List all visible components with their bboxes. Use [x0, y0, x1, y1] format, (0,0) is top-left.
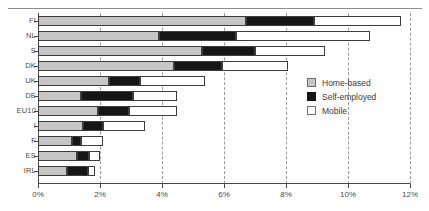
bar-segment-f-home — [38, 136, 72, 146]
legend-swatch-home-icon — [307, 78, 316, 87]
legend-item-mobile: Mobile — [307, 104, 407, 117]
bar-segment-irl-mobile — [88, 166, 96, 176]
chart-legend: Home-basedSelf-employedMobile — [307, 76, 407, 118]
x-tick-label-2%: 2% — [94, 190, 106, 199]
bar-segment-uk-mobile — [140, 76, 205, 86]
legend-swatch-mobile-icon — [307, 106, 316, 115]
bar-row — [0, 166, 429, 176]
legend-label: Self-employed — [322, 92, 376, 102]
bar-segment-eu10-self — [98, 106, 129, 116]
x-tick-12% — [410, 184, 411, 188]
bar-row — [0, 61, 429, 71]
x-tick-10% — [348, 184, 349, 188]
bar-segment-dk-home — [38, 61, 174, 71]
bar-segment-f-mobile — [81, 136, 103, 146]
bar-segment-irl-home — [38, 166, 67, 176]
bar-segment-nl-mobile — [236, 31, 369, 41]
x-tick-label-10%: 10% — [340, 190, 356, 199]
bar-segment-f-self — [72, 136, 81, 146]
legend-label: Home-based — [322, 78, 371, 88]
x-tick-4% — [162, 184, 163, 188]
legend-item-self: Self-employed — [307, 90, 407, 103]
bar-segment-fi-home — [38, 16, 246, 26]
bar-segment-de-mobile — [133, 91, 178, 101]
bar-segment-i-self — [83, 121, 103, 131]
bar-segment-de-self — [81, 91, 132, 101]
bar-row — [0, 46, 429, 56]
bar-segment-es-self — [77, 151, 89, 161]
bar-segment-s-mobile — [255, 46, 325, 56]
bar-segment-eu10-home — [38, 106, 98, 116]
x-tick-label-4%: 4% — [156, 190, 168, 199]
bar-segment-es-mobile — [89, 151, 100, 161]
bar-segment-fi-mobile — [314, 16, 401, 26]
legend-item-home: Home-based — [307, 76, 407, 89]
bar-segment-irl-self — [67, 166, 87, 176]
bar-segment-es-home — [38, 151, 77, 161]
bar-row — [0, 136, 429, 146]
top-divider-rule — [8, 8, 422, 9]
bar-segment-dk-mobile — [222, 61, 287, 71]
bar-segment-i-home — [38, 121, 83, 131]
bar-segment-nl-self — [159, 31, 237, 41]
bar-segment-fi-self — [246, 16, 314, 26]
chart-figure: FINLSDKUKDEEU10IFESIRL 0%2%4%6%8%10%12% … — [0, 0, 429, 211]
bar-segment-eu10-mobile — [129, 106, 177, 116]
x-tick-label-8%: 8% — [280, 190, 292, 199]
legend-label: Mobile — [322, 106, 347, 116]
bar-row — [0, 151, 429, 161]
x-tick-0% — [38, 184, 39, 188]
x-tick-8% — [286, 184, 287, 188]
x-tick-label-12%: 12% — [402, 190, 418, 199]
bar-segment-de-home — [38, 91, 81, 101]
bar-row — [0, 121, 429, 131]
bar-segment-s-self — [202, 46, 255, 56]
bar-row — [0, 31, 429, 41]
x-tick-label-0%: 0% — [32, 190, 44, 199]
bar-segment-dk-self — [174, 61, 222, 71]
x-tick-2% — [100, 184, 101, 188]
bar-segment-s-home — [38, 46, 202, 56]
x-tick-6% — [224, 184, 225, 188]
bar-segment-nl-home — [38, 31, 159, 41]
bar-segment-uk-self — [109, 76, 140, 86]
bar-segment-i-mobile — [103, 121, 145, 131]
x-tick-label-6%: 6% — [218, 190, 230, 199]
bar-segment-uk-home — [38, 76, 109, 86]
bar-row — [0, 16, 429, 26]
legend-swatch-self-icon — [307, 92, 316, 101]
